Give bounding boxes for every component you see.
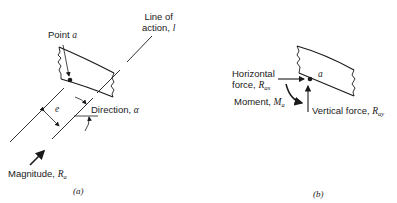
panel-b-member (297, 46, 355, 96)
direction-label: Direction, α (91, 104, 139, 116)
moment-arc (286, 84, 302, 103)
horizontal-force-label: Horizontal force, Rax (232, 68, 275, 93)
point-symbol: a (72, 30, 77, 40)
moment-text: Moment, (234, 96, 271, 107)
point-label-text: Point (48, 29, 70, 40)
caption-b: (b) (313, 189, 324, 199)
direction-symbol: α (134, 105, 139, 115)
caption-a: (a) (73, 186, 84, 196)
vertical-force-label: Vertical force, Ray (312, 105, 384, 119)
moment-symbol: M (274, 97, 282, 107)
horizontal-line2: force, (232, 79, 256, 90)
line-of-action-label: Line of action, l (142, 11, 175, 34)
eccentricity-label: e (55, 104, 59, 115)
magnitude-arrow (30, 151, 44, 165)
moment-label: Moment, Ma (234, 96, 285, 110)
point-a-label-b: a (318, 69, 323, 80)
horizontal-subscript: ax (264, 84, 270, 91)
direction-text: Direction, (91, 104, 131, 115)
parallel-line (10, 88, 64, 142)
line-of-action (52, 36, 152, 139)
direction-angle-arc (85, 117, 89, 131)
point-a-label: Point a (48, 29, 77, 41)
direction-arc-top (75, 97, 86, 104)
vertical-text: Vertical force, (312, 105, 370, 116)
vertical-subscript: ay (378, 110, 384, 117)
line-of-action-line1: Line of (142, 11, 175, 22)
line-symbol: l (173, 23, 176, 33)
panel-a-member (58, 47, 114, 97)
point-a-dot (68, 78, 73, 83)
line-of-action-line2: action, (142, 22, 170, 33)
moment-subscript: a (282, 101, 285, 108)
magnitude-subscript: a (63, 173, 66, 180)
magnitude-label: Magnitude, Ra (8, 168, 67, 182)
point-a-dot-b (308, 77, 313, 82)
magnitude-text: Magnitude, (8, 168, 55, 179)
horizontal-line1: Horizontal (232, 68, 275, 79)
